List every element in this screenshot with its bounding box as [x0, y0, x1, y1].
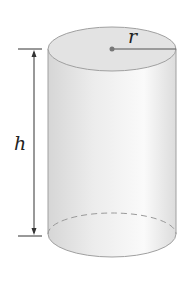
center-point — [110, 47, 115, 52]
cylinder-diagram: r h — [0, 0, 190, 290]
cylinder-body — [48, 49, 176, 257]
height-label: h — [14, 132, 26, 154]
